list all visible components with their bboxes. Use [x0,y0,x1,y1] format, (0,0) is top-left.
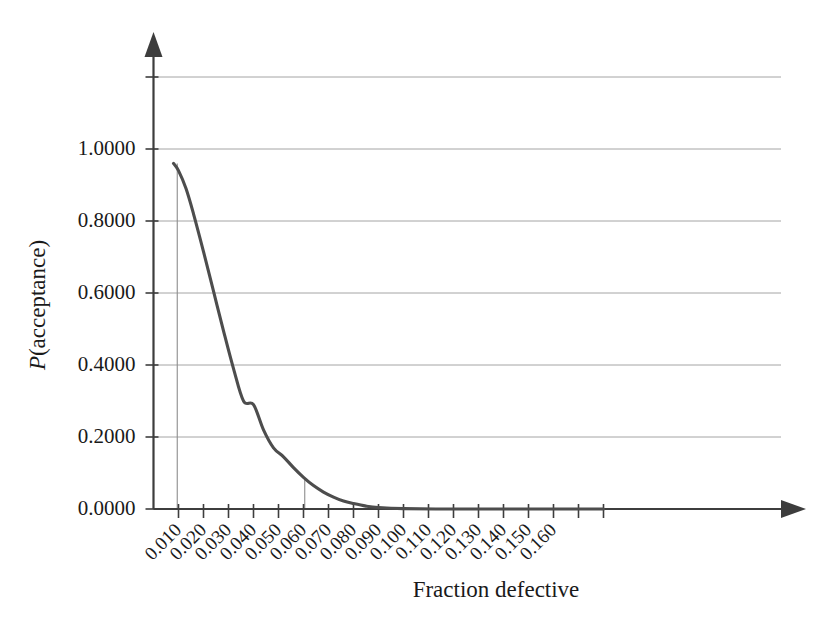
x-axis-title: Fraction defective [413,577,580,602]
y-axis-tick-label: 0.4000 [78,352,136,376]
svg-text:P(acceptance): P(acceptance) [25,240,50,371]
y-axis-tick-label: 0.2000 [78,424,136,448]
chart-canvas: 0.00000.20000.40000.60000.80001.0000 0.0… [0,0,821,620]
y-axis-tick-label: 0.6000 [78,280,136,304]
y-axis-tick-label: 0.0000 [78,496,136,520]
y-axis-arrowhead [145,32,163,57]
y-axis-group [145,32,163,509]
y-axis-title: P(acceptance) [25,240,50,371]
x-tick-labels-group: 0.0100.0200.0300.0400.0500.0600.0700.080… [140,519,560,564]
operating-characteristic-chart: 0.00000.20000.40000.60000.80001.0000 0.0… [0,0,821,620]
y-tick-labels-group: 0.00000.20000.40000.60000.80001.0000 [78,136,136,520]
gridlines-group [154,77,782,437]
y-axis-title-prefix: P [25,356,50,371]
oc-curve-group [174,163,604,509]
oc-curve-line [174,163,604,509]
y-axis-title-rest: (acceptance) [25,240,50,356]
x-axis-arrowhead [781,500,806,518]
y-axis-tick-label: 0.8000 [78,208,136,232]
y-axis-tick-label: 1.0000 [78,136,136,160]
